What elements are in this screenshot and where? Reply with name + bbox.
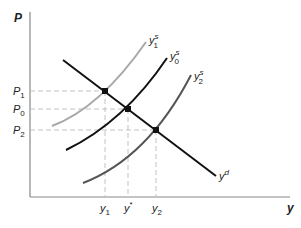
- ystar-label: y*: [123, 200, 133, 214]
- supply-curve-2-label: ys2: [193, 68, 204, 86]
- equilibrium-point-0: [125, 106, 131, 112]
- supply-curve-0: [66, 58, 167, 150]
- p2-label: P2: [13, 124, 25, 139]
- equilibrium-point-1: [102, 88, 108, 94]
- x-axis-label: y: [286, 201, 295, 215]
- guide-lines: [30, 91, 156, 197]
- supply-curve-1-label: ys1: [148, 32, 159, 50]
- p1-label: P1: [13, 85, 25, 100]
- y-axis-label: P: [14, 11, 23, 25]
- y2-label: y2: [151, 202, 163, 217]
- p0-label: P0: [13, 103, 25, 118]
- supply-curve-0-label: ys0: [169, 48, 180, 66]
- equilibrium-point-2: [153, 127, 159, 133]
- supply-demand-diagram: P y P1 P0 P2 y1 y* y2 ys1 ys0 ys2 yd: [0, 0, 301, 228]
- y1-label: y1: [99, 202, 111, 217]
- demand-curve-label: yd: [218, 168, 230, 182]
